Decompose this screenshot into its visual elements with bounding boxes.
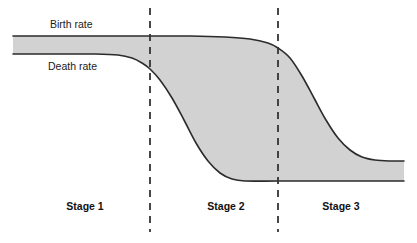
dtm-chart-svg: Birth rate Death rate Stage 1 Stage 2 St… xyxy=(0,0,417,243)
demographic-transition-diagram: Birth rate Death rate Stage 1 Stage 2 St… xyxy=(0,0,417,243)
stage-label-2: Stage 2 xyxy=(207,200,245,212)
stage-label-1: Stage 1 xyxy=(66,200,104,212)
death-rate-label: Death rate xyxy=(48,60,97,72)
stage-label-3: Stage 3 xyxy=(322,200,360,212)
birth-rate-label: Birth rate xyxy=(50,18,93,30)
